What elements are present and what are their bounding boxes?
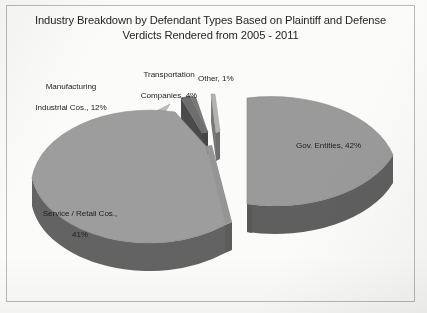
- slice-label-service-line-1: Service / Retail Cos.,: [43, 209, 117, 218]
- slice-label-manufacturing-line-1: Manufacturing: [46, 82, 97, 91]
- chart-page: Industry Breakdown by Defendant Types Ba…: [0, 0, 427, 313]
- slice-label-service-line-2: 41%: [72, 230, 88, 239]
- slice-label-transportation-line-2: Companies, 4%: [141, 91, 198, 100]
- slice-label-manufacturing-line-2: Industrial Cos., 12%: [35, 103, 106, 112]
- slice-label-transportation-line-1: Transportation: [143, 70, 194, 79]
- slice-label-service-retail-cos: Service / Retail Cos., 41%: [22, 199, 138, 240]
- slice-label-other: Other, 1%: [198, 74, 260, 84]
- slice-label-manufacturing-industrial-cos: Manufacturing Industrial Cos., 12%: [18, 72, 124, 113]
- slice-label-gov-entities: Gov. Entities, 42%: [296, 141, 400, 151]
- pie-chart-graphic: [0, 0, 427, 313]
